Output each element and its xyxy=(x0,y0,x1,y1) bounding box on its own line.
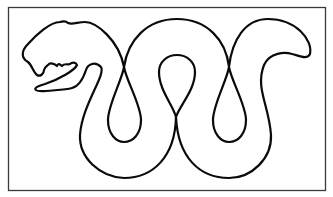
figure-canvas xyxy=(0,0,333,197)
serpent-illustration xyxy=(0,0,333,197)
